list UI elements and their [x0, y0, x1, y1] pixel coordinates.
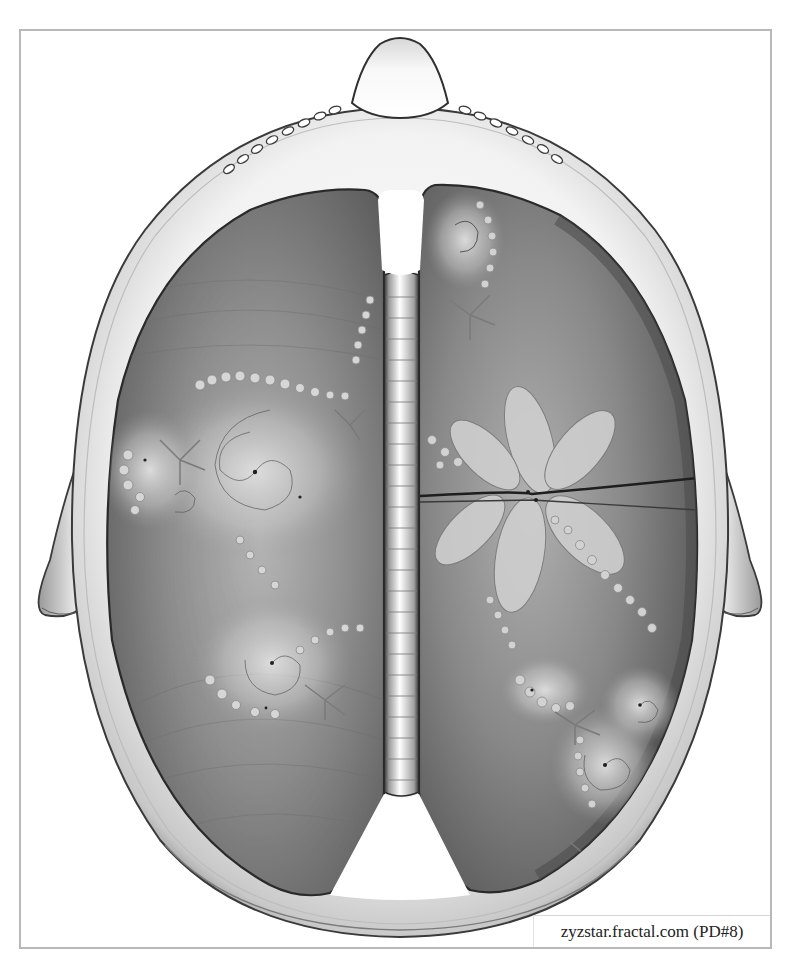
nose [352, 38, 448, 118]
watermark-caption: zyzstar.fractal.com (PD#8) [533, 915, 770, 947]
fractal-brain-illustration [0, 0, 789, 971]
